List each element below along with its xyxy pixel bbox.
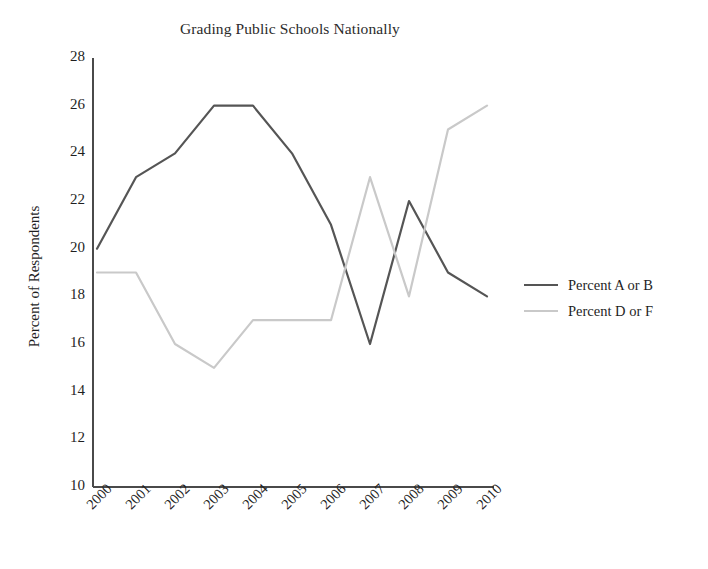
x-axis-tick-label: 2003 [200,480,233,513]
chart-figure: Grading Public Schools Nationally Percen… [0,0,708,569]
legend-line-swatch-d-or-f [524,310,558,312]
legend-line-swatch-a-or-b [524,284,558,286]
x-axis-tick-label: 2009 [434,480,467,513]
x-axis-tick-label: 2006 [317,480,350,513]
legend-item: Percent A or B [524,272,704,298]
x-axis-tick-label: 2004 [239,480,272,513]
x-axis-tick-label: 2002 [161,480,194,513]
x-axis-tick-label: 2007 [356,480,389,513]
legend-label-d-or-f: Percent D or F [568,303,653,320]
x-axis-tick-label: 2010 [473,480,506,513]
chart-legend: Percent A or B Percent D or F [524,272,704,324]
x-axis-tick-label: 2008 [395,480,428,513]
x-axis-tick-label: 2000 [83,480,116,513]
legend-label-a-or-b: Percent A or B [568,277,653,294]
legend-item: Percent D or F [524,298,704,324]
x-axis-tick-label: 2005 [278,480,311,513]
x-axis-tick-label: 2001 [122,480,155,513]
